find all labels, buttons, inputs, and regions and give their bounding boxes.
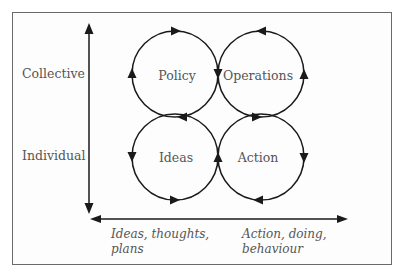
policy-label: Policy (158, 68, 196, 83)
horizontal-axis-arrow (90, 215, 348, 223)
y-axis-label-individual: Individual (22, 148, 86, 163)
x-axis-label-left-line2: plans (111, 242, 209, 257)
operations-label: Operations (223, 68, 293, 83)
y-axis-label-collective: Collective (22, 66, 85, 81)
vertical-axis-arrow (85, 23, 94, 214)
x-axis-label-left: Ideas, thoughts, plans (111, 227, 209, 257)
ideas-label: Ideas (159, 150, 193, 165)
x-axis-label-right-line2: behaviour (242, 242, 327, 257)
x-axis-label-right: Action, doing, behaviour (242, 227, 327, 257)
action-label: Action (238, 150, 279, 165)
x-axis-label-right-line1: Action, doing, (242, 227, 327, 242)
x-axis-label-left-line1: Ideas, thoughts, (111, 227, 209, 242)
